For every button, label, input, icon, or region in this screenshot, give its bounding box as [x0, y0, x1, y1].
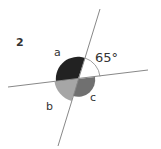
- angle-b-sector: [55, 79, 79, 101]
- problem-number: 2: [16, 36, 24, 49]
- angle-c-label: c: [90, 91, 96, 104]
- angle-a-label: a: [54, 46, 61, 59]
- angle-b-label: b: [46, 100, 53, 113]
- angle-diagram: 2 a 65° b c: [0, 0, 161, 149]
- angle-65-label: 65°: [95, 50, 118, 65]
